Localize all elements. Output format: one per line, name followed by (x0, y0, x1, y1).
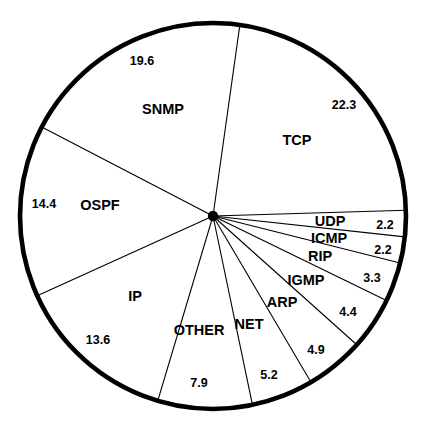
pie-chart: TCP22.3UDP2.2ICMP2.2RIP3.3IGMP4.4ARP4.9N… (0, 0, 424, 430)
slice-name-tcp: TCP (283, 132, 312, 148)
slice-value-udp: 2.2 (376, 218, 393, 232)
slice-value-icmp: 2.2 (374, 243, 391, 257)
slice-value-snmp: 19.6 (130, 54, 154, 68)
slice-name-rip: RIP (308, 248, 333, 264)
slice-name-net: NET (235, 316, 264, 332)
slice-name-udp: UDP (315, 213, 346, 229)
slice-name-arp: ARP (267, 294, 298, 310)
slice-value-arp: 4.9 (307, 343, 324, 357)
slice-value-ip: 13.6 (86, 333, 110, 347)
slice-value-ospf: 14.4 (32, 197, 56, 211)
slice-name-igmp: IGMP (287, 272, 324, 288)
slice-name-ip: IP (128, 288, 142, 304)
slice-value-igmp: 4.4 (339, 305, 356, 319)
slice-name-ospf: OSPF (80, 197, 120, 213)
slice-name-snmp: SNMP (142, 101, 184, 117)
slice-value-tcp: 22.3 (332, 98, 356, 112)
slice-value-rip: 3.3 (363, 271, 380, 285)
slice-name-other: OTHER (174, 322, 225, 338)
slice-value-net: 5.2 (260, 368, 277, 382)
slice-value-other: 7.9 (190, 376, 207, 390)
pie-chart-canvas: TCP22.3UDP2.2ICMP2.2RIP3.3IGMP4.4ARP4.9N… (0, 0, 424, 430)
pie-center-hub (208, 211, 218, 221)
slice-name-icmp: ICMP (311, 230, 348, 246)
